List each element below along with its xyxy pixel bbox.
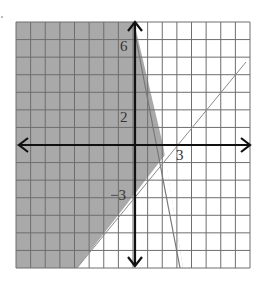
y-tick-label-neg3: −3 (110, 187, 126, 203)
y-tick-label-2: 2 (120, 109, 128, 125)
stray-mark (1, 16, 3, 18)
y-tick-label-6: 6 (120, 38, 128, 54)
x-tick-label-3: 3 (176, 147, 184, 163)
inequality-graph: 6 2 −3 3 (0, 0, 261, 281)
